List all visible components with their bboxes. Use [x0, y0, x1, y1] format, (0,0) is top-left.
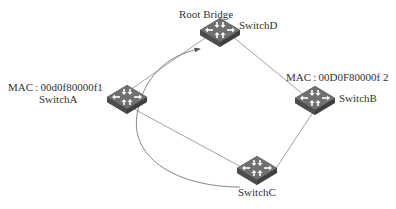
link-b-c — [273, 106, 317, 173]
switch-d-label: SwitchD — [239, 19, 278, 31]
link-d-b — [232, 36, 304, 95]
root-bridge-label: Root Bridge — [179, 8, 233, 20]
switch-c-label: SwitchC — [238, 186, 276, 198]
link-a-d — [127, 36, 208, 92]
link-a-c — [123, 103, 243, 168]
switch-c-icon[interactable] — [237, 156, 277, 185]
path-arrow-c-to-d — [136, 49, 240, 187]
switch-b-icon[interactable] — [295, 86, 335, 115]
switch-a-label: SwitchA — [39, 93, 78, 105]
switch-a-icon[interactable] — [107, 85, 147, 114]
switch-b-label: SwitchB — [339, 92, 377, 104]
switch-d-icon[interactable] — [200, 18, 240, 47]
switch-a-mac-label: MAC : 00d0f80000f1 — [8, 81, 103, 93]
switch-b-mac-label: MAC : 00D0F80000f 2 — [286, 71, 389, 83]
